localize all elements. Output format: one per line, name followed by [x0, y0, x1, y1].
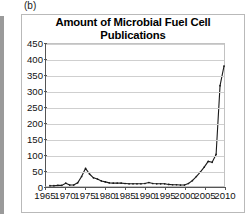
y-tick-mark: [44, 155, 47, 156]
data-point: [203, 166, 205, 168]
x-tick-label: 1980: [94, 190, 115, 201]
y-tick-mark: [44, 123, 47, 124]
y-tick-label: 200: [27, 118, 43, 129]
x-tick-label: 1965: [34, 190, 55, 201]
data-point: [116, 182, 118, 184]
data-point: [192, 180, 194, 182]
y-tick-mark: [44, 187, 47, 188]
x-axis-line: [45, 187, 225, 188]
data-point: [156, 183, 158, 185]
x-axis-tick-labels: 1965197019751980198519901995200020052010: [45, 190, 226, 204]
gridline-y-400: [46, 60, 224, 61]
data-point: [136, 183, 138, 185]
data-point: [168, 184, 170, 186]
data-point: [164, 183, 166, 185]
gridline-y-200: [46, 124, 224, 125]
data-point: [219, 85, 221, 87]
x-tick-mark: [185, 187, 186, 190]
x-tick-label: 1985: [114, 190, 135, 201]
data-point: [152, 183, 154, 185]
x-tick-mark: [205, 187, 206, 190]
x-tick-label: 2010: [214, 190, 235, 201]
x-tick-label: 2000: [174, 190, 195, 201]
x-tick-label: 1990: [134, 190, 155, 201]
y-tick-mark: [44, 107, 47, 108]
data-point: [132, 183, 134, 185]
gridline-y-450: [46, 44, 224, 45]
y-tick-mark: [44, 139, 47, 140]
gridline-y-50: [46, 172, 224, 173]
panel-label: (b): [24, 0, 36, 11]
data-point: [148, 182, 150, 184]
gridline-y-300: [46, 92, 224, 93]
data-point: [144, 183, 146, 185]
data-point: [93, 177, 95, 179]
data-point: [223, 65, 225, 67]
x-tick-mark: [145, 187, 146, 190]
data-point: [81, 176, 83, 178]
gridline-y-350: [46, 76, 224, 77]
data-point: [188, 183, 190, 185]
y-tick-label: 300: [27, 86, 43, 97]
adjacent-panel-artifact-gap: [4, 16, 7, 214]
data-point: [120, 182, 122, 184]
y-tick-label: 350: [27, 70, 43, 81]
x-tick-label: 1970: [54, 190, 75, 201]
y-tick-mark: [44, 75, 47, 76]
data-point: [207, 161, 209, 163]
y-tick-label: 150: [27, 134, 43, 145]
x-tick-mark: [225, 187, 226, 190]
x-tick-mark: [105, 187, 106, 190]
data-point: [112, 182, 114, 184]
data-point: [77, 182, 79, 184]
y-tick-label: 100: [27, 150, 43, 161]
y-tick-mark: [44, 91, 47, 92]
data-series-line: [46, 44, 224, 186]
x-tick-mark: [65, 187, 66, 190]
data-point: [128, 183, 130, 185]
y-tick-label: 450: [27, 38, 43, 49]
data-point: [124, 183, 126, 185]
x-tick-mark: [165, 187, 166, 190]
x-tick-label: 1975: [74, 190, 95, 201]
gridline-y-100: [46, 156, 224, 157]
y-tick-mark: [44, 43, 47, 44]
data-point: [104, 181, 106, 183]
data-point: [176, 184, 178, 186]
data-point: [108, 182, 110, 184]
y-tick-mark: [44, 59, 47, 60]
y-axis-tick-labels: 050100150200250300350400450: [19, 43, 43, 187]
y-tick-label: 400: [27, 54, 43, 65]
data-point: [172, 184, 174, 186]
y-tick-label: 250: [27, 102, 43, 113]
chart-title-line-1: Amount of Microbial Fuel Cell Publicatio…: [26, 16, 240, 41]
x-tick-label: 1995: [154, 190, 175, 201]
data-point: [65, 182, 67, 184]
data-point: [89, 173, 91, 175]
y-tick-mark: [44, 171, 47, 172]
data-point: [195, 176, 197, 178]
data-point: [85, 167, 87, 169]
data-point: [101, 180, 103, 182]
data-point: [140, 183, 142, 185]
data-point: [97, 178, 99, 180]
x-tick-label: 2005: [194, 190, 215, 201]
data-point: [211, 161, 213, 163]
gridline-y-150: [46, 140, 224, 141]
x-tick-mark: [125, 187, 126, 190]
gridline-y-250: [46, 108, 224, 109]
plot-area: [45, 43, 225, 187]
data-point: [160, 183, 162, 185]
y-tick-label: 50: [32, 166, 43, 177]
x-tick-mark: [85, 187, 86, 190]
